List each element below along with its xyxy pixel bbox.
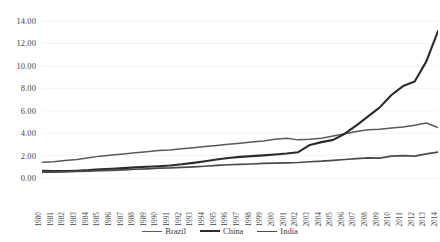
legend-label: Brazil [165,227,186,236]
legend-line-swatch [142,231,162,232]
legend-line-swatch [257,231,277,232]
y-axis-tick-label: 14.00 [16,17,36,26]
series-line-china [42,31,438,171]
y-axis-tick-label: 0.00 [21,174,36,183]
x-axis: 1980198119821983198419851986198719881989… [42,183,438,219]
legend-label: India [280,227,297,236]
line-chart: 14.0012.0010.008.006.004.002.000.00 1980… [0,0,440,242]
plot-area [42,0,438,186]
y-axis-tick-label: 10.00 [16,62,36,71]
legend-item-india[interactable]: India [257,227,297,236]
y-axis: 14.0012.0010.008.006.004.002.000.00 [0,0,40,186]
legend-label: China [223,227,243,236]
y-axis-tick-label: 12.00 [16,39,36,48]
chart-legend: BrazilChinaIndia [0,224,440,238]
legend-item-china[interactable]: China [200,227,243,236]
y-axis-tick-label: 8.00 [21,84,36,93]
legend-line-swatch [200,230,220,232]
legend-item-brazil[interactable]: Brazil [142,227,186,236]
series-canvas [42,0,438,186]
y-axis-tick-label: 6.00 [21,106,36,115]
y-axis-tick-label: 2.00 [21,151,36,160]
y-axis-tick-label: 4.00 [21,129,36,138]
plot-wrapper: 14.0012.0010.008.006.004.002.000.00 [0,0,440,186]
